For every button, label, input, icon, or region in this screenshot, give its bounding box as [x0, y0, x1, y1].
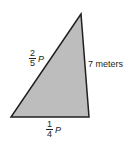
bottom-denominator: 4	[47, 130, 52, 139]
triangle	[11, 14, 89, 117]
left-variable: P	[38, 54, 44, 64]
bottom-side-label: 1 4 P	[46, 120, 61, 139]
bottom-variable: P	[55, 125, 61, 135]
right-side-label: 7 meters	[88, 59, 123, 69]
left-denominator: 5	[30, 59, 35, 68]
triangle-figure	[0, 0, 138, 148]
left-side-label: 2 5 P	[29, 49, 44, 68]
